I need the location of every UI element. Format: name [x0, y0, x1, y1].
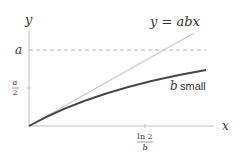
y-tick-a: a: [15, 43, 22, 57]
curve-label-var: b: [170, 79, 178, 93]
saturating-curve-label: b small: [170, 79, 206, 93]
y-tick-a-half: a 2: [12, 78, 19, 97]
y-axis-label: y: [24, 12, 33, 27]
y-tick-half-num: a: [13, 78, 18, 87]
diagram-canvas: y x a a 2 ln 2 b y = abx b small: [0, 0, 241, 155]
saturating-curve: [29, 70, 206, 126]
x-tick-num: ln 2: [137, 132, 152, 141]
y-tick-half-den: 2: [12, 88, 17, 97]
linear-line-label: y = abx: [149, 14, 201, 29]
curve-label-text: small: [180, 80, 206, 92]
x-tick-ln2-over-b: ln 2 b: [137, 132, 153, 152]
x-axis-label: x: [222, 119, 229, 133]
x-tick-den: b: [142, 143, 147, 152]
